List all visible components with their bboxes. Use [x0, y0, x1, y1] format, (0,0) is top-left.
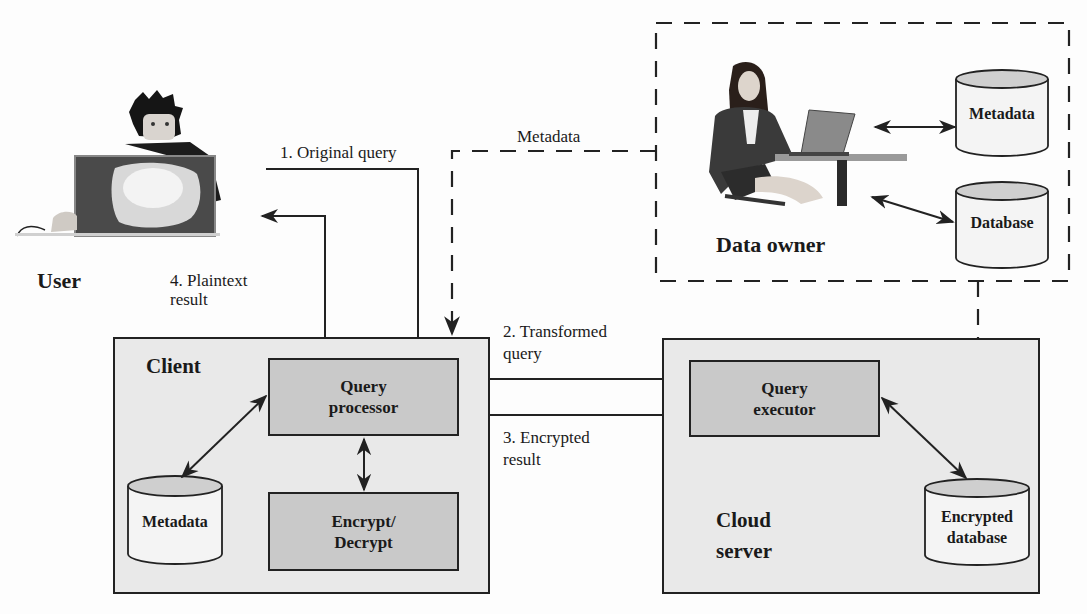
query-executor-box[interactable]: Query executor: [689, 360, 880, 437]
client-metadata-cylinder[interactable]: Metadata: [126, 474, 224, 566]
query-processor-box[interactable]: Query processor: [268, 358, 459, 436]
data-owner-at-laptop-icon: [705, 60, 915, 210]
encrypted-result-label-line1: 3. Encrypted: [503, 428, 590, 447]
plaintext-result-label-line2: result: [170, 290, 208, 309]
transformed-query-label-line1: 2. Transformed: [503, 322, 607, 341]
user-at-computer-icon: [15, 90, 225, 240]
cloud-server-label-line1: Cloud: [716, 508, 771, 533]
query-executor-line1: Query: [761, 378, 807, 399]
encrypted-database-line2: database: [923, 528, 1031, 548]
data-owner-label: Data owner: [716, 232, 825, 258]
encrypt-decrypt-line2: Decrypt: [334, 532, 393, 553]
metadata-flow-label: Metadata: [517, 127, 580, 146]
query-executor-line2: executor: [753, 399, 815, 420]
encrypt-decrypt-line1: Encrypt/: [331, 511, 395, 532]
query-processor-line2: processor: [329, 397, 399, 418]
data-owner-figure: [705, 60, 915, 210]
client-metadata-label: Metadata: [126, 512, 224, 532]
original-query-arrow: [266, 169, 418, 356]
client-label: Client: [146, 354, 201, 379]
encrypted-database-line1: Encrypted: [923, 507, 1031, 527]
owner-database-cylinder[interactable]: Database: [954, 180, 1050, 270]
encrypted-database-cylinder[interactable]: Encrypted database: [923, 477, 1031, 567]
plaintext-result-label-line1: 4. Plaintext: [170, 271, 247, 290]
owner-database-label: Database: [954, 213, 1050, 233]
user-figure: [15, 90, 225, 240]
encrypt-decrypt-box[interactable]: Encrypt/ Decrypt: [268, 492, 459, 571]
cloud-server-label-line2: server: [716, 539, 772, 564]
owner-metadata-cylinder[interactable]: Metadata: [954, 68, 1050, 158]
user-label: User: [37, 268, 81, 294]
metadata-flow-line: [452, 151, 656, 334]
transformed-query-label-line2: query: [503, 344, 542, 363]
owner-metadata-label: Metadata: [954, 104, 1050, 124]
original-query-label: 1. Original query: [280, 143, 397, 162]
encrypted-result-label-line2: result: [503, 450, 541, 469]
query-processor-line1: Query: [340, 376, 386, 397]
